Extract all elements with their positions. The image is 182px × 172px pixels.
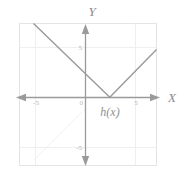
coordinate-plane-figure: -5 5 5 -5 0 Y X h(x)	[0, 0, 182, 172]
origin-label: 0	[80, 99, 84, 107]
graph-screenshot: -5 5 5 -5 0 Y X h(x)	[0, 0, 182, 172]
y-tick-label-pos5: 5	[79, 44, 83, 52]
y-axis-label: Y	[88, 4, 97, 19]
curve-label-h-of-x: h(x)	[100, 105, 119, 119]
x-tick-label-pos5: 5	[134, 99, 138, 107]
x-tick-label-neg5: -5	[33, 99, 39, 107]
y-tick-label-neg5: -5	[76, 144, 82, 152]
x-axis-label: X	[167, 90, 177, 105]
